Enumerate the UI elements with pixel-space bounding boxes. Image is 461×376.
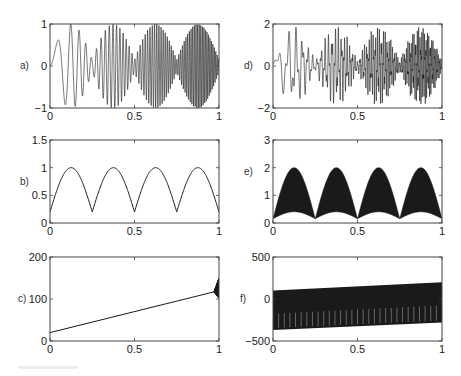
panel-label-b: b) (20, 176, 29, 187)
subplot-e: 00.510123e) (244, 134, 445, 237)
y-tick-label: 0 (264, 293, 270, 305)
panel-label-e: e) (244, 166, 253, 177)
subplot-d: 00.51−202d) (244, 18, 445, 122)
x-tick-label: 0.5 (350, 225, 365, 237)
envelope-line (50, 168, 219, 212)
signal-line (273, 27, 442, 104)
y-tick-label: 1.5 (32, 134, 47, 146)
plot-area (273, 168, 442, 219)
y-tick-label: 0.5 (32, 189, 47, 201)
subplot-c: 00.510100200c) (18, 251, 222, 355)
y-tick-label: 0 (41, 335, 47, 347)
x-tick-label: 0 (47, 225, 53, 237)
plot-area (50, 24, 219, 108)
y-tick-label: 0 (41, 60, 47, 72)
panel-label-f: f) (240, 293, 246, 304)
y-tick-label: 3 (264, 134, 270, 146)
plot-area (273, 27, 442, 104)
y-tick-label: −1 (34, 102, 47, 114)
panel-label-a: a) (20, 60, 29, 71)
axes-box (50, 257, 219, 341)
plot-area (50, 168, 219, 212)
signal-line (50, 24, 219, 108)
y-tick-label: 200 (29, 251, 47, 263)
x-tick-label: 1 (216, 110, 222, 122)
y-tick-label: 2 (264, 162, 270, 174)
subplot-f: 00.51−5000500f) (240, 251, 445, 355)
y-tick-label: 0 (264, 60, 270, 72)
y-tick-label: 0 (41, 217, 47, 229)
y-tick-label: 1 (264, 189, 270, 201)
x-tick-label: 1 (439, 225, 445, 237)
x-tick-label: 1 (439, 343, 445, 355)
figure: 00.51−101a)00.5100.511.5b)00.510100200c)… (0, 0, 461, 376)
panel-label-c: c) (18, 293, 26, 304)
subplot-b: 00.5100.511.5b) (20, 134, 222, 237)
x-tick-label: 1 (439, 110, 445, 122)
plot-area (273, 282, 442, 330)
subplot-a: 00.51−101a) (20, 18, 222, 122)
x-tick-label: 0 (270, 343, 276, 355)
x-tick-label: 0.5 (127, 343, 142, 355)
filled-band (273, 168, 442, 219)
x-tick-label: 0 (270, 225, 276, 237)
y-tick-label: −500 (245, 335, 270, 347)
x-tick-label: 0.5 (350, 343, 365, 355)
y-tick-label: 500 (252, 251, 270, 263)
y-tick-label: 2 (264, 18, 270, 30)
y-tick-label: 100 (29, 293, 47, 305)
x-tick-label: 0 (47, 110, 53, 122)
panel-label-d: d) (244, 60, 253, 71)
cropped-caption (18, 366, 78, 369)
y-tick-label: 1 (41, 18, 47, 30)
x-tick-label: 0.5 (127, 225, 142, 237)
x-tick-label: 1 (216, 343, 222, 355)
y-tick-label: −2 (257, 102, 270, 114)
frequency-line (50, 278, 219, 332)
y-tick-label: 1 (41, 162, 47, 174)
x-tick-label: 1 (216, 225, 222, 237)
x-tick-label: 0 (47, 343, 53, 355)
plot-area (50, 278, 219, 332)
y-tick-label: 0 (264, 217, 270, 229)
x-tick-label: 0 (270, 110, 276, 122)
x-tick-label: 0.5 (127, 110, 142, 122)
x-tick-label: 0.5 (350, 110, 365, 122)
